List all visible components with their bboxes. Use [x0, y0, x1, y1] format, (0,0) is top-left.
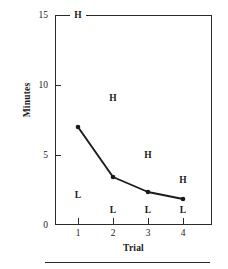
data-point-trial-3: [146, 190, 151, 195]
x-axis-title: Trial: [55, 243, 212, 253]
x-tick-mark-3: [148, 218, 149, 225]
figure-bottom-rule: [45, 262, 210, 263]
annotation-h-trial-3: H: [140, 150, 156, 160]
data-point-trial-1: [76, 125, 81, 130]
annotation-l-trial-3: L: [140, 205, 156, 215]
x-tick-mark-4: [183, 218, 184, 225]
annotation-h-trial-1: H: [70, 10, 86, 20]
annotation-l-trial-1: L: [70, 190, 86, 200]
x-tick-mark-1: [78, 218, 79, 225]
annotation-h-trial-2: H: [105, 93, 121, 103]
data-point-trial-2: [111, 175, 116, 180]
annotation-l-trial-4: L: [175, 205, 191, 215]
x-tick-label-1: 1: [69, 228, 87, 239]
annotation-l-trial-2: L: [105, 205, 121, 215]
x-tick-label-4: 4: [174, 228, 192, 239]
data-point-trial-4: [181, 197, 186, 202]
annotation-h-trial-4: H: [175, 175, 191, 185]
x-tick-label-3: 3: [139, 228, 157, 239]
figure-minutes-by-trial: Minutes 15 10 5 0 H H H H L L L L 1 2 3 …: [0, 0, 228, 269]
x-tick-mark-2: [113, 218, 114, 225]
series-line-mean-minutes: [78, 127, 183, 199]
x-tick-label-2: 2: [104, 228, 122, 239]
